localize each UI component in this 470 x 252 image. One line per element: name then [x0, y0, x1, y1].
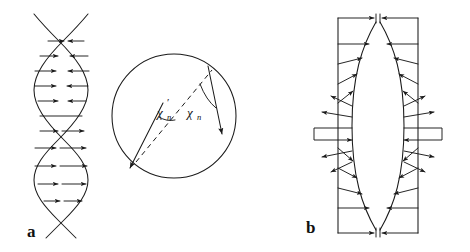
figure-svg: χ ′ n χ n a: [0, 0, 470, 252]
svg-text:χ: χ: [185, 105, 193, 120]
svg-text:′: ′: [167, 96, 169, 108]
chi-n-label: χ n: [185, 105, 201, 122]
arrows-middle-right: [404, 96, 442, 172]
svg-text:n: n: [167, 112, 171, 122]
figure-container: χ ′ n χ n a: [0, 0, 470, 252]
helix-strand-front: [34, 14, 88, 238]
chi-angle-arc: [200, 84, 216, 108]
arrows-middle-left: [314, 96, 352, 172]
circle-cross-section-group: χ ′ n χ n: [112, 54, 236, 178]
panel-b-label: b: [306, 218, 315, 237]
lens-boundary-left: [352, 22, 376, 230]
helix-lower-arrow-row: [35, 131, 87, 201]
double-helix-group: [34, 14, 89, 238]
chi-prime-n-label: χ ′ n: [155, 96, 171, 122]
helix-upper-arrow-row: [35, 41, 89, 101]
chi-vector-arrow: [208, 66, 222, 134]
barrel-vortex-group: [314, 14, 442, 237]
helix-strand-back: [34, 14, 88, 238]
svg-text:χ: χ: [155, 105, 163, 120]
svg-text:n: n: [197, 112, 201, 122]
cross-section-circle: [112, 54, 236, 178]
panel-a-label: a: [27, 222, 36, 241]
lens-boundary-right: [380, 22, 404, 230]
